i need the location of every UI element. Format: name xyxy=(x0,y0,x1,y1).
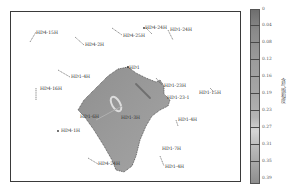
well-label: HD1-7H xyxy=(162,147,181,152)
colorbar-tickmark xyxy=(250,110,260,111)
well-label: HD1-4H xyxy=(71,75,90,80)
well-label: HD1-4H xyxy=(178,118,197,123)
well-label: HD1 xyxy=(129,66,140,71)
colorbar-label: 含气饱和度 xyxy=(280,78,285,103)
colorbar-tickmark xyxy=(250,25,260,26)
colorbar-tickmark xyxy=(250,76,260,77)
colorbar-tick: 0.19 xyxy=(262,91,272,95)
well-label: HD1-23H xyxy=(164,84,186,89)
well-label: HD4-24H xyxy=(98,162,120,167)
well-label: HD1-24H xyxy=(170,28,192,33)
well-label: HD1-15H xyxy=(199,91,221,96)
saturation-map xyxy=(0,0,287,192)
colorbar-tick: 0 xyxy=(262,7,265,11)
well-label: HD4-16H xyxy=(40,87,62,92)
colorbar-tick: 0.23 xyxy=(262,108,272,112)
colorbar-tick: 0.04 xyxy=(262,23,272,27)
colorbar-tickmark xyxy=(250,42,260,43)
well-label: HD1-23-1 xyxy=(167,96,189,101)
colorbar-tickmark xyxy=(250,144,260,145)
colorbar-tickmark xyxy=(250,161,260,162)
colorbar xyxy=(250,9,260,184)
colorbar-tick: 0.39 xyxy=(262,176,272,180)
colorbar-tickmark xyxy=(250,93,260,94)
colorbar-tick: 0.16 xyxy=(262,74,272,78)
well-label: HD4-25H xyxy=(123,34,145,39)
well-label: HD1-4H xyxy=(165,165,184,170)
colorbar-tick: 0.35 xyxy=(262,159,272,163)
colorbar-tick: 0.12 xyxy=(262,57,272,61)
well-label: HD1-3H xyxy=(121,116,140,121)
colorbar-tick: 0.31 xyxy=(262,142,272,146)
colorbar-tickmark xyxy=(250,59,260,60)
well-label: HD4-1H xyxy=(61,129,80,134)
well-label: HD4-24H xyxy=(145,26,167,31)
well-label: HD4-2H xyxy=(85,43,104,48)
well-label: HD4-15H xyxy=(36,31,58,36)
well-label: HD1-6H xyxy=(80,115,99,120)
colorbar-tickmark xyxy=(250,127,260,128)
colorbar-tick: 0.08 xyxy=(262,40,272,44)
colorbar-tick: 0.27 xyxy=(262,125,272,129)
